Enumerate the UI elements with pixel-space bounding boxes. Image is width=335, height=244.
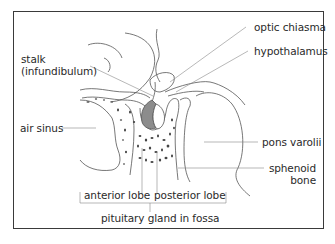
label-stalk: stalk	[21, 53, 46, 65]
fossa-wall-left	[125, 104, 134, 175]
label-air-sinus: air sinus	[20, 122, 63, 134]
anterior-lobe-shape	[153, 104, 165, 129]
label-posterior-lobe: posterior lobe	[154, 189, 226, 201]
label-optic-chiasma: optic chiasma	[254, 21, 326, 33]
label-pons-varolii: pons varolii	[262, 136, 321, 148]
label-hypothalamus: hypothalamus	[254, 45, 328, 57]
label-anterior-lobe: anterior lobe	[84, 189, 150, 201]
label-sphenoid: sphenoid	[262, 162, 316, 174]
label-bone: bone	[262, 174, 316, 186]
air-sinus-outline	[80, 100, 120, 171]
label-stalk-infundibulum: (infundibulum)	[21, 65, 97, 77]
pons-outline	[196, 93, 250, 196]
stalk-shape	[152, 82, 155, 102]
hypothalamus-leader	[176, 51, 248, 92]
optic-chiasma-shape	[150, 73, 174, 92]
dorsum-sellae	[166, 99, 179, 181]
label-pituitary-gland-in-fossa: pituitary gland in fossa	[101, 212, 219, 224]
